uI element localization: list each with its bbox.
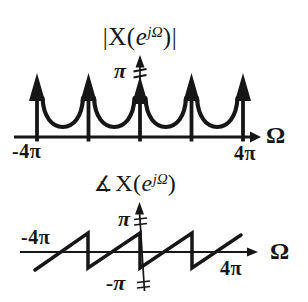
phase-xmax-label: 4π xyxy=(220,258,242,278)
magnitude-plot-shapes xyxy=(14,55,261,143)
phase-title: ∡X(ejΩ) xyxy=(55,171,215,195)
phase-y-axis-arrowhead xyxy=(135,202,144,215)
magnitude-title: |X(ejΩ)| xyxy=(60,24,220,49)
phase-neg-pi-tick-lower xyxy=(137,287,150,289)
phase-pi-tick-upper xyxy=(134,218,147,220)
magnitude-title-sup: jΩ xyxy=(147,23,163,40)
phase-neg-pi-label: -π xyxy=(106,272,125,294)
measured-angle-symbol: ∡ xyxy=(94,171,115,196)
magnitude-impulse-arrows xyxy=(29,73,251,142)
phase-neg-pi-tick-upper xyxy=(137,281,150,283)
phase-title-e: e xyxy=(142,170,153,196)
magnitude-title-e: e xyxy=(136,23,148,50)
magnitude-pi-label: π xyxy=(114,60,126,82)
magnitude-y-axis-arrowhead xyxy=(136,55,145,68)
phase-y-axis xyxy=(134,202,150,291)
magnitude-x-axis xyxy=(14,132,261,143)
magnitude-xmin-label: -4π xyxy=(12,141,41,161)
magnitude-title-open: |X( xyxy=(103,23,136,50)
magnitude-pi-tick-upper xyxy=(134,69,147,72)
magnitude-title-close: )| xyxy=(163,23,177,50)
phase-pi-tick-lower xyxy=(134,224,147,226)
magnitude-omega-label: Ω xyxy=(266,123,285,147)
phase-x-axis-arrowhead xyxy=(247,248,258,257)
phase-title-close: ) xyxy=(168,170,177,196)
phase-pi-label: π xyxy=(118,208,130,230)
phase-title-open: X( xyxy=(115,170,141,196)
phase-xmin-label: -4π xyxy=(21,227,50,247)
phase-title-sup: jΩ xyxy=(153,171,168,187)
phase-omega-label: Ω xyxy=(270,239,289,263)
dtft-magnitude-phase-figure: |X(ejΩ)| π Ω -4π 4π ∡X(ejΩ) π -π Ω -4π 4… xyxy=(0,0,308,302)
magnitude-x-axis-arrowhead xyxy=(250,132,261,143)
magnitude-xmax-label: 4π xyxy=(234,143,256,163)
